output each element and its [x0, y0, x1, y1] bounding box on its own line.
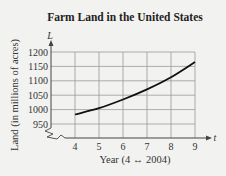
y-tick-label: 1000 [28, 104, 48, 115]
x-tick-label: 9 [193, 141, 198, 152]
grid [51, 52, 195, 138]
x-axis-var: t [214, 132, 217, 143]
y-tick-label: 1150 [28, 61, 48, 72]
y-tick-label: 950 [33, 119, 48, 130]
axis-break-icon [45, 128, 65, 139]
y-axis-label: Land (in millions of acres) [9, 39, 21, 151]
chart-title: Farm Land in the United States [47, 11, 203, 23]
x-tick-label: 6 [121, 141, 126, 152]
y-tick-label: 1050 [28, 90, 48, 101]
x-tick-label: 4 [73, 141, 78, 152]
x-tick-label: 7 [145, 141, 150, 152]
tick-labels: 95010001050110011501200456789 [28, 47, 198, 153]
axes [45, 40, 212, 141]
x-tick-label: 5 [97, 141, 102, 152]
x-axis-label: Year (4 ↔ 2004) [100, 154, 171, 166]
x-tick-label: 8 [169, 141, 174, 152]
series-line [75, 62, 195, 114]
y-tick-label: 1200 [28, 47, 48, 58]
chart: Farm Land in the United States Land (in … [0, 0, 226, 176]
y-axis-var: L [46, 30, 53, 41]
y-tick-label: 1100 [28, 75, 48, 86]
x-axis-arrow [206, 136, 212, 141]
